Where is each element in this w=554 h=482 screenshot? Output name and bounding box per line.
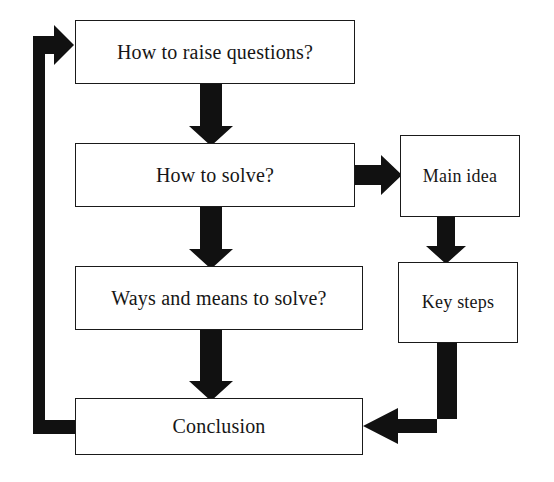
flowchart-canvas: How to raise questions? How to solve? Wa… [0, 0, 554, 482]
node-how-to-raise-questions[interactable]: How to raise questions? [75, 20, 355, 84]
node-ways-and-means-to-solve[interactable]: Ways and means to solve? [75, 266, 363, 330]
arrow-how-to-solve-to-main-idea [355, 155, 402, 195]
node-label-conclusion: Conclusion [172, 415, 265, 438]
node-label-raise-questions: How to raise questions? [117, 41, 313, 64]
node-label-main-idea: Main idea [423, 166, 497, 187]
node-how-to-solve[interactable]: How to solve? [75, 143, 355, 207]
arrow-raise-questions-to-how-to-solve [189, 84, 233, 146]
arrow-key-steps-to-conclusion [363, 343, 457, 444]
node-main-idea[interactable]: Main idea [400, 135, 520, 217]
node-label-key-steps: Key steps [422, 292, 494, 313]
arrow-ways-means-to-conclusion [189, 330, 233, 401]
node-conclusion[interactable]: Conclusion [75, 398, 363, 455]
arrow-main-idea-to-key-steps [426, 217, 466, 264]
node-label-how-to-solve: How to solve? [156, 164, 274, 187]
node-label-ways-means: Ways and means to solve? [111, 287, 326, 310]
arrow-conclusion-to-raise-questions-feedback [33, 25, 75, 434]
node-key-steps[interactable]: Key steps [398, 262, 518, 343]
arrow-how-to-solve-to-ways-means [189, 207, 233, 269]
